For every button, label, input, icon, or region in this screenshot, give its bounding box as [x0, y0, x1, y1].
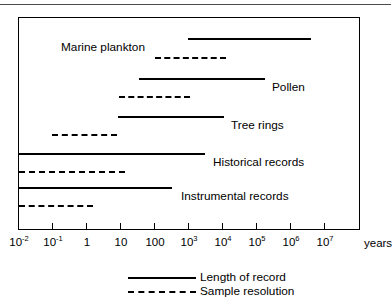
tick-mantissa: 10	[115, 236, 128, 248]
x-axis-tick	[222, 223, 223, 230]
x-axis-tick	[256, 223, 257, 230]
legend-label-length-of-record: Length of record	[200, 270, 286, 284]
series-label-historical-records: Historical records	[213, 155, 304, 169]
x-axis-tick-label: 10	[115, 236, 128, 249]
x-axis-tick	[18, 223, 19, 230]
sample-resolution-bar-marine-plankton	[155, 57, 226, 59]
x-axis-tick	[188, 223, 189, 230]
sample-resolution-bar-instrumental-records	[19, 205, 93, 207]
series-label-marine-plankton: Marine plankton	[61, 40, 145, 54]
tick-mantissa: 1	[84, 236, 90, 248]
tick-exponent: 6	[295, 234, 299, 243]
x-axis-tick	[86, 223, 87, 230]
tick-exponent: 5	[261, 234, 265, 243]
legend-label-sample-resolution: Sample resolution	[200, 284, 294, 298]
length-of-record-bar-tree-rings	[118, 116, 224, 118]
x-axis-tick-label: 10-2	[9, 236, 28, 249]
tick-exponent: -2	[22, 234, 29, 243]
legend-swatch-dashed	[128, 291, 196, 293]
tick-mantissa: 10	[43, 236, 56, 248]
x-axis-tick-label: 103	[181, 236, 198, 249]
x-axis-tick	[324, 223, 325, 230]
legend-swatch-solid	[128, 277, 196, 279]
sample-resolution-bar-tree-rings	[52, 134, 117, 136]
length-of-record-bar-instrumental-records	[19, 187, 172, 189]
tick-mantissa: 10	[283, 236, 296, 248]
tick-mantissa: 10	[9, 236, 22, 248]
top-divider-rule	[0, 4, 391, 5]
x-axis-tick-label: 100	[145, 236, 164, 249]
length-of-record-bar-pollen	[139, 78, 265, 80]
tick-mantissa: 10	[249, 236, 262, 248]
sample-resolution-bar-historical-records	[19, 171, 125, 173]
tick-exponent: 4	[227, 234, 231, 243]
x-axis-tick-label: 107	[317, 236, 334, 249]
x-axis-tick	[120, 223, 121, 230]
series-label-tree-rings: Tree rings	[231, 118, 284, 132]
x-axis-tick	[154, 223, 155, 230]
tick-exponent: -1	[56, 234, 63, 243]
x-axis-tick-label: 1	[84, 236, 90, 249]
tick-exponent: 7	[329, 234, 333, 243]
x-axis-tick	[52, 223, 53, 230]
length-of-record-bar-marine-plankton	[188, 38, 311, 40]
series-label-pollen: Pollen	[272, 80, 305, 94]
tick-mantissa: 10	[215, 236, 228, 248]
x-axis-tick-label: 105	[249, 236, 266, 249]
tick-exponent: 3	[193, 234, 197, 243]
sample-resolution-bar-pollen	[119, 96, 190, 98]
x-axis-tick-label: 104	[215, 236, 232, 249]
x-axis-tick	[290, 223, 291, 230]
tick-mantissa: 10	[317, 236, 330, 248]
series-label-instrumental-records: Instrumental records	[181, 189, 289, 203]
x-axis-tick-label: 106	[283, 236, 300, 249]
x-axis-tick-label: 10-1	[43, 236, 62, 249]
tick-mantissa: 100	[145, 236, 164, 248]
x-axis-unit-label: years	[364, 237, 392, 249]
tick-mantissa: 10	[181, 236, 194, 248]
length-of-record-bar-historical-records	[19, 153, 205, 155]
